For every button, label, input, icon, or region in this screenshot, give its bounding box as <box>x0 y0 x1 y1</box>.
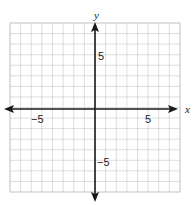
y-axis-name: y <box>93 9 99 21</box>
y-axis <box>91 22 99 202</box>
x-axis <box>4 105 178 113</box>
coordinate-plane: x y −5 5 5 −5 <box>0 0 196 205</box>
y-tick-label-neg5: −5 <box>97 156 110 168</box>
x-axis-name: x <box>184 103 190 115</box>
x-tick-label-5: 5 <box>145 113 151 125</box>
y-tick-label-5: 5 <box>98 50 104 62</box>
x-tick-label-neg5: −5 <box>31 113 44 125</box>
